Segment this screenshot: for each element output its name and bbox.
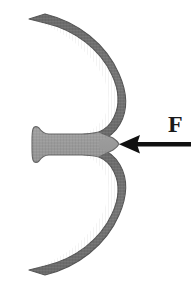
bracket-body [29, 14, 126, 275]
figure-canvas: F [0, 0, 191, 289]
force-arrow-shaft [136, 142, 191, 147]
bracket-force-diagram [0, 0, 191, 289]
force-label: F [168, 111, 191, 137]
force-arrow-head [119, 135, 140, 154]
force-arrow [119, 135, 191, 154]
